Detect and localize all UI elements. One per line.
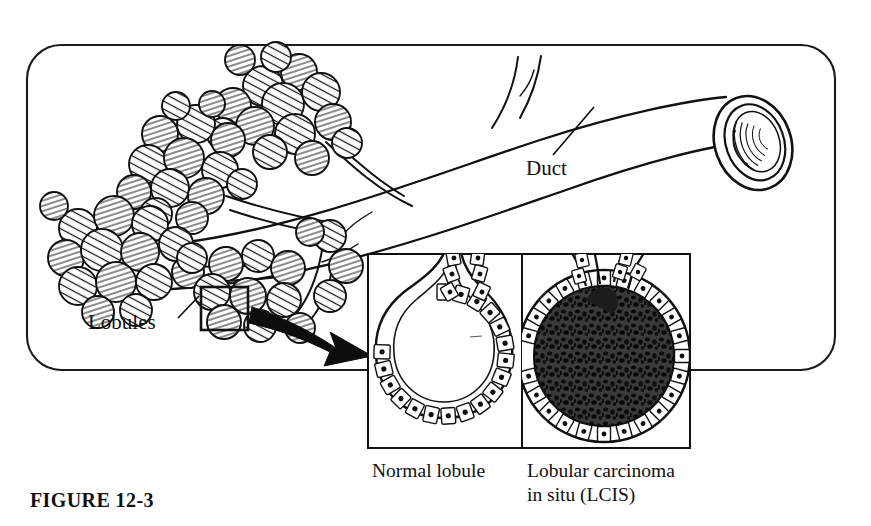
figure-root: Lobules Duct xyxy=(0,0,871,526)
duct-label: Duct xyxy=(526,156,567,180)
inset-normal-lobule xyxy=(368,246,522,448)
lcis-caption-line1: Lobular carcinoma xyxy=(527,460,675,481)
normal-lobule-caption: Normal lobule xyxy=(372,460,485,481)
figure-caption: FIGURE 12-3 xyxy=(30,489,154,511)
breast-lobule-illustration: Lobules Duct xyxy=(0,0,871,526)
lcis-caption-line2: in situ (LCIS) xyxy=(527,484,635,506)
inset-lcis xyxy=(518,250,690,448)
lobules-label: Lobules xyxy=(88,310,156,334)
